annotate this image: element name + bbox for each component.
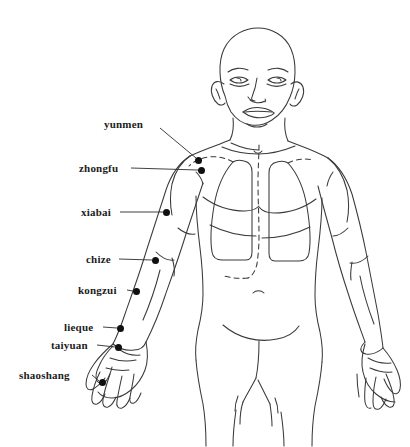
acupoint-dot-yunmen[interactable] [195, 157, 202, 164]
acupoint-dot-kongzui[interactable] [133, 288, 140, 295]
acupoint-figure: yunmen zhongfu xiabai chize kongzui lieq… [0, 0, 410, 447]
leader-line-taiyuan [97, 345, 115, 347]
acupoint-dot-zhongfu[interactable] [198, 167, 205, 174]
leader-line-lieque [103, 327, 117, 328]
leader-line-yunmen [160, 128, 196, 158]
acupoint-label-kongzui: kongzui [78, 285, 117, 296]
leader-line-chize [119, 259, 152, 260]
acupoint-dot-taiyuan[interactable] [115, 344, 122, 351]
acupoint-dot-lieque[interactable] [117, 325, 124, 332]
acupoint-label-yunmen: yunmen [104, 119, 143, 130]
acupoint-label-zhongfu: zhongfu [79, 163, 118, 174]
acupoint-label-chize: chize [86, 254, 111, 265]
acupoint-dot-xiabai[interactable] [163, 209, 170, 216]
acupoint-label-lieque: lieque [64, 322, 93, 333]
leader-line-zhongfu [131, 168, 198, 170]
leader-line-shaoshang [92, 375, 99, 381]
acupoint-label-taiyuan: taiyuan [51, 340, 88, 351]
acupoint-dot-chize[interactable] [152, 257, 159, 264]
acupoint-label-shaoshang: shaoshang [19, 370, 70, 381]
acupoint-label-xiabai: xiabai [81, 207, 111, 218]
acupoint-dot-shaoshang[interactable] [99, 379, 106, 386]
